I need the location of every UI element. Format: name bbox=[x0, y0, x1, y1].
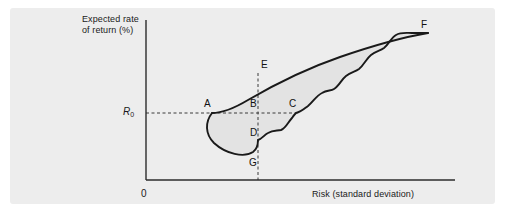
figure-page: Expected rate of return (%) Risk (standa… bbox=[0, 0, 505, 219]
feasible-region-fill bbox=[207, 33, 428, 155]
origin-label: 0 bbox=[141, 188, 147, 199]
y-axis-label: Expected rate of return (%) bbox=[82, 14, 139, 36]
y-axis-label-line2: of return (%) bbox=[82, 25, 139, 36]
efficient-frontier-chart bbox=[0, 0, 505, 219]
y-axis-label-line1: Expected rate bbox=[82, 14, 139, 25]
x-axis-label: Risk (standard deviation) bbox=[312, 189, 414, 200]
point-label-g: G bbox=[249, 158, 257, 168]
point-label-a: A bbox=[204, 99, 211, 109]
y-axis-tick-label-r0: R0 bbox=[123, 106, 134, 118]
point-label-d: D bbox=[250, 128, 257, 138]
point-label-c: C bbox=[289, 99, 296, 109]
point-label-b: B bbox=[250, 99, 257, 109]
point-label-e: E bbox=[261, 60, 268, 70]
r0-subscript: 0 bbox=[130, 111, 134, 118]
point-label-f: F bbox=[421, 20, 427, 30]
